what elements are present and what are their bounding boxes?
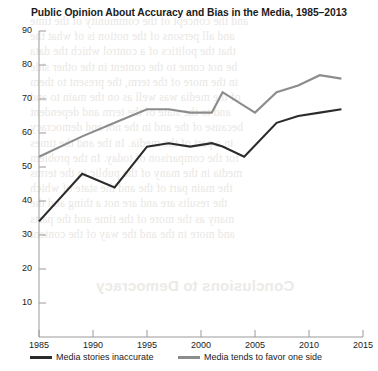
series-line-0 [39, 109, 341, 221]
legend-swatch-0 [30, 356, 52, 359]
x-tick-label: 2015 [343, 340, 378, 350]
legend-item-0: Media stories inaccurate [30, 352, 154, 362]
y-tick-label: 30 [10, 229, 32, 239]
y-tick-label: 70 [10, 93, 32, 103]
y-tick-label: 20 [10, 263, 32, 273]
x-tick-label: 2000 [181, 340, 221, 350]
legend-label-0: Media stories inaccurate [56, 352, 154, 362]
x-tick-label: 2010 [289, 340, 329, 350]
x-tick-label: 2005 [235, 340, 275, 350]
y-tick-label: 60 [10, 127, 32, 137]
line-chart-plot [0, 0, 378, 371]
x-tick-label: 1985 [19, 340, 59, 350]
legend-swatch-1 [178, 356, 200, 359]
x-tick-label: 1990 [73, 340, 113, 350]
y-tick-label: 10 [10, 297, 32, 307]
y-tick-label: 40 [10, 195, 32, 205]
chart-page: and the concept of the community of the … [0, 0, 378, 371]
y-tick-label: 50 [10, 161, 32, 171]
legend-label-1: Media tends to favor one side [204, 352, 322, 362]
chart-series-lines [39, 75, 341, 221]
x-tick-label: 1995 [127, 340, 167, 350]
y-tick-label: 90 [10, 25, 32, 35]
y-tick-label: 80 [10, 59, 32, 69]
legend-item-1: Media tends to favor one side [178, 352, 322, 362]
